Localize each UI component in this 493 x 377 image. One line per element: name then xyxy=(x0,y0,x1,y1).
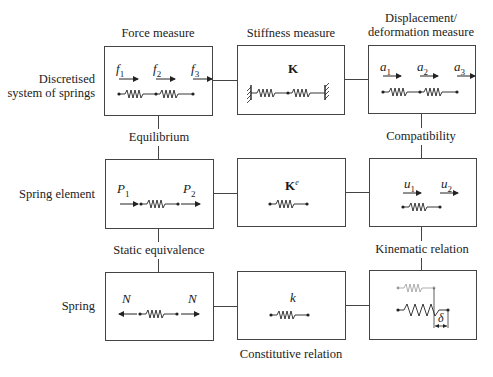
spring-element-with-displacements xyxy=(369,158,477,227)
column-header-stiffness: Stiffness measure xyxy=(247,26,335,40)
spring-element xyxy=(237,158,346,227)
symbol-delta: δ xyxy=(438,311,444,325)
box-displacement-spring: δ xyxy=(369,270,477,340)
connector-c3-r2-up xyxy=(421,145,422,158)
connector-r3-c2c3 xyxy=(345,305,369,306)
connector-r1-c2c3 xyxy=(344,79,368,80)
box-stiffness-spring: k xyxy=(237,271,346,340)
relation-kinematic: Kinematic relation xyxy=(375,242,468,256)
box-stiffness-discretised: K xyxy=(237,45,345,115)
row-label-spring: Spring xyxy=(62,299,95,313)
row-label-discretised-2: system of springs xyxy=(8,86,96,100)
two-spring-system-with-displacements xyxy=(368,45,476,114)
spring-elongation-diagram xyxy=(369,270,477,340)
connector-r3-c1c2 xyxy=(213,306,237,307)
relation-compatibility: Compatibility xyxy=(386,129,455,143)
row-label-spring-element: Spring element xyxy=(19,187,95,201)
relation-static-equivalence: Static equivalence xyxy=(113,243,204,257)
connector-r2-c1c2 xyxy=(213,193,237,194)
relation-constitutive: Constitutive relation xyxy=(240,347,342,361)
connector-c1-r2-up xyxy=(158,146,159,159)
connector-c3-r2-down xyxy=(421,226,422,241)
connector-r2-c2c3 xyxy=(345,192,369,193)
box-force-element: P1 P2 xyxy=(105,159,214,229)
connector-r1-c1c2 xyxy=(212,80,237,81)
box-force-discretised: f1 f2 f3 xyxy=(104,46,213,116)
box-displacement-element: u1 u2 xyxy=(369,158,477,227)
box-force-spring: N N xyxy=(105,272,214,341)
connector-c1-r3-up xyxy=(158,259,159,272)
column-header-displacement-1: Displacement/ xyxy=(385,11,457,25)
fixed-two-spring-system xyxy=(237,45,345,115)
row-label-discretised-1: Discretised xyxy=(39,72,95,86)
spring-with-axial-forces xyxy=(105,272,214,341)
two-spring-system-with-forces xyxy=(104,46,213,116)
column-header-displacement-2: deformation measure xyxy=(368,25,474,39)
spring-element-with-nodal-forces xyxy=(105,159,214,229)
connector-c1-r2-down xyxy=(158,228,159,242)
relation-equilibrium: Equilibrium xyxy=(129,130,189,144)
single-spring xyxy=(237,271,346,340)
connector-c3-r1-down xyxy=(421,113,422,128)
column-header-force: Force measure xyxy=(121,26,194,40)
box-displacement-discretised: a1 a2 a3 xyxy=(368,45,476,114)
connector-c1-r1-down xyxy=(158,115,159,129)
box-stiffness-element: Ke xyxy=(237,158,346,227)
